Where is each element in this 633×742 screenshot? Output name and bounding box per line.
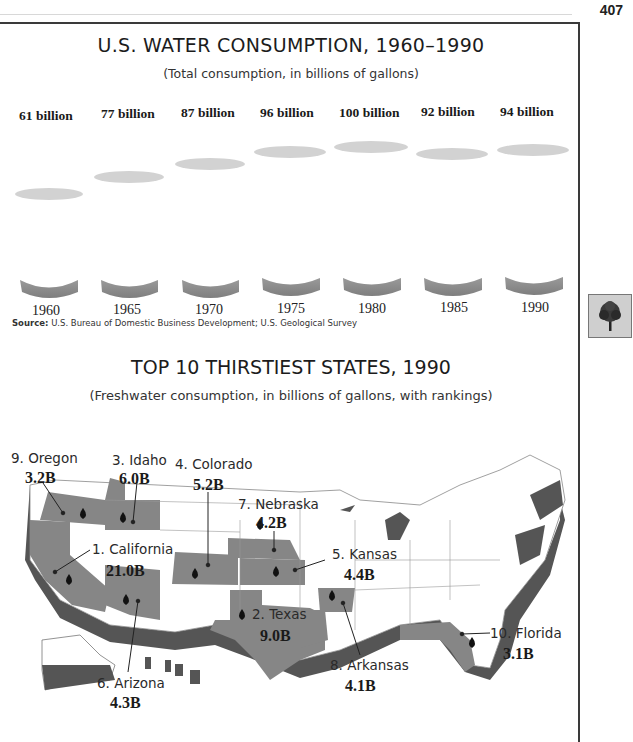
glasses-graphic: [0, 130, 582, 305]
label-texas: 2. Texas: [252, 606, 307, 622]
year-1965: 1965: [113, 302, 141, 318]
source-text: U.S. Bureau of Domestic Business Develop…: [51, 318, 357, 328]
year-1970: 1970: [195, 302, 223, 318]
value-florida: 3.1B: [503, 645, 534, 663]
header-rule: [0, 14, 572, 15]
glass-1970: [175, 158, 245, 298]
label-california: 1. California: [92, 541, 173, 557]
value-texas: 9.0B: [260, 627, 291, 645]
year-1980: 1980: [358, 301, 386, 317]
label-colorado: 4. Colorado: [175, 456, 253, 472]
value-california: 21.0B: [106, 562, 145, 580]
value-label-1990: 94 billion: [500, 104, 554, 120]
value-arkansas: 4.1B: [345, 677, 376, 695]
value-oregon: 3.2B: [25, 469, 56, 487]
glass-1960: [15, 188, 83, 298]
chart2-title: TOP 10 THIRSTIEST STATES, 1990: [0, 356, 582, 378]
value-arizona: 4.3B: [110, 694, 141, 712]
value-label-1970: 87 billion: [181, 105, 235, 121]
label-florida: 10. Florida: [490, 625, 562, 641]
page-number: 407: [600, 2, 623, 18]
year-1985: 1985: [440, 300, 468, 316]
value-kansas: 4.4B: [344, 566, 375, 584]
glass-1965: [94, 171, 164, 298]
source-label: Source:: [12, 318, 48, 328]
value-label-1960: 61 billion: [19, 108, 73, 124]
value-label-1965: 77 billion: [101, 106, 155, 122]
year-1990: 1990: [521, 300, 549, 316]
chart1-subtitle: (Total consumption, in billions of gallo…: [0, 66, 582, 81]
value-idaho: 6.0B: [119, 470, 150, 488]
tree-icon: [588, 294, 632, 338]
source-note: Source: U.S. Bureau of Domestic Business…: [12, 318, 357, 328]
year-1960: 1960: [32, 303, 60, 319]
value-label-1985: 92 billion: [421, 104, 475, 120]
label-arkansas: 8. Arkansas: [330, 657, 409, 673]
label-kansas: 5. Kansas: [332, 546, 397, 562]
glass-1985: [416, 148, 488, 296]
state-nebraska: [228, 538, 300, 560]
year-1975: 1975: [277, 301, 305, 317]
glass-1980: [334, 141, 408, 296]
us-map: [0, 400, 582, 713]
value-colorado: 5.2B: [193, 476, 224, 494]
state-arkansas: [318, 588, 355, 612]
label-oregon: 9. Oregon: [11, 450, 78, 466]
value-label-1975: 96 billion: [260, 105, 314, 121]
chart1-title: U.S. WATER CONSUMPTION, 1960–1990: [0, 34, 582, 56]
glass-1975: [254, 146, 326, 296]
label-arizona: 6. Arizona: [97, 675, 165, 691]
value-nebraska: 4.2B: [256, 514, 287, 532]
value-label-1980: 100 billion: [339, 105, 399, 121]
label-idaho: 3. Idaho: [112, 452, 167, 468]
label-nebraska: 7. Nebraska: [238, 496, 319, 512]
glass-1990: [497, 144, 569, 295]
